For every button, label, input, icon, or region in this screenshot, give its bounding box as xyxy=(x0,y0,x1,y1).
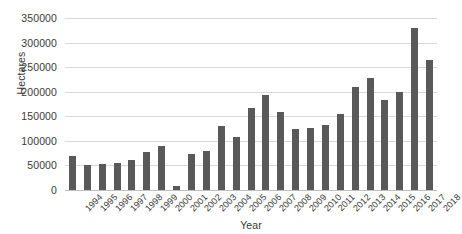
bar xyxy=(322,125,329,190)
y-axis-tick-label: 150000 xyxy=(21,110,57,122)
y-axis-tick-label: 350000 xyxy=(21,12,57,24)
bar xyxy=(188,154,195,190)
x-axis-tick-labels: 1994199519961997199819992000200120022003… xyxy=(65,190,437,220)
y-axis-tick-label: 300000 xyxy=(21,37,57,49)
bar xyxy=(203,151,210,190)
y-axis-tick-label: 50000 xyxy=(27,159,57,171)
bar xyxy=(292,129,299,190)
bar xyxy=(128,160,135,190)
bar xyxy=(411,28,418,190)
bar xyxy=(84,165,91,190)
y-axis-tick-label: 0 xyxy=(51,184,57,196)
y-axis-tick-label: 100000 xyxy=(21,135,57,147)
bar xyxy=(233,137,240,190)
x-axis-title: Year xyxy=(65,219,437,231)
bar xyxy=(426,60,433,190)
bar xyxy=(248,108,255,190)
y-axis-tick-label: 250000 xyxy=(21,61,57,73)
y-axis-tick-labels: 3500003000002500002000001500001000005000… xyxy=(0,18,61,190)
bar xyxy=(352,87,359,190)
bar xyxy=(262,95,269,190)
bar xyxy=(114,163,121,190)
bar xyxy=(143,152,150,190)
bar-series xyxy=(65,18,437,190)
bar xyxy=(218,126,225,190)
bar xyxy=(367,78,374,190)
bar xyxy=(277,112,284,190)
bar xyxy=(396,92,403,190)
y-axis-tick-label: 200000 xyxy=(21,86,57,98)
bar xyxy=(307,128,314,190)
bar xyxy=(337,114,344,190)
plot-area xyxy=(65,18,437,190)
bar xyxy=(99,164,106,190)
bar xyxy=(158,146,165,190)
bar xyxy=(381,100,388,190)
bar xyxy=(69,156,76,190)
